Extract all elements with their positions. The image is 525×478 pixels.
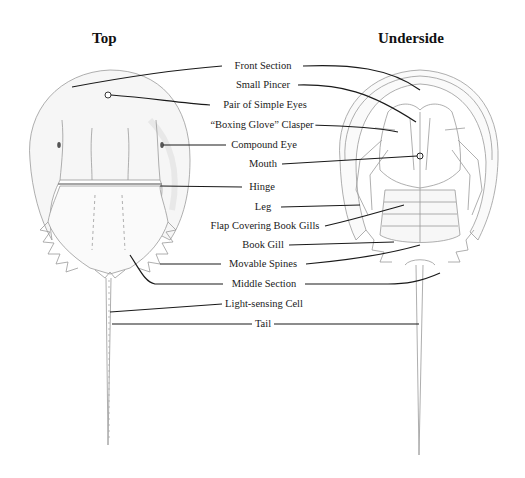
- label-compound-eye: Compound Eye: [229, 139, 299, 151]
- label-hinge: Hinge: [247, 181, 277, 193]
- top-view-crab: [30, 70, 190, 445]
- heading-underside: Underside: [378, 30, 444, 47]
- label-book-gill: Book Gill: [240, 239, 286, 251]
- label-middle-section: Middle Section: [230, 278, 298, 290]
- label-tail: Tail: [253, 318, 273, 330]
- label-light-sensing-cell: Light-sensing Cell: [223, 298, 305, 310]
- label-boxing-glove-clasper: “Boxing Glove” Clasper: [208, 119, 315, 131]
- label-flap-covering-book-gills: Flap Covering Book Gills: [209, 220, 322, 232]
- heading-top: Top: [92, 30, 116, 47]
- label-mouth: Mouth: [247, 158, 279, 170]
- label-leg: Leg: [253, 201, 273, 213]
- label-front-section: Front Section: [233, 60, 294, 72]
- label-small-pincer: Small Pincer: [234, 79, 292, 91]
- label-pair-of-simple-eyes: Pair of Simple Eyes: [221, 99, 309, 111]
- label-movable-spines: Movable Spines: [227, 258, 299, 270]
